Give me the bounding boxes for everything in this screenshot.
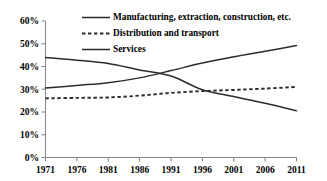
x-tick-label: 1996 — [193, 165, 212, 175]
series-line-1 — [46, 87, 297, 98]
y-tick-label: 30% — [20, 85, 39, 95]
series-line-2 — [46, 46, 297, 89]
y-axis: 0%10%20%30%40%50%60% — [20, 16, 46, 163]
y-tick-label: 10% — [20, 130, 39, 140]
x-axis: 197119761981198619911996200120062011 — [36, 158, 306, 176]
data-series-group — [46, 46, 297, 111]
y-tick-label: 60% — [20, 16, 39, 26]
y-axis-ticks — [42, 21, 46, 158]
x-tick-label: 2011 — [287, 165, 306, 175]
y-tick-label: 40% — [20, 62, 39, 72]
y-tick-label: 0% — [25, 153, 39, 163]
legend-label-1: Distribution and transport — [113, 28, 220, 38]
x-tick-label: 1976 — [67, 165, 86, 175]
y-tick-label: 50% — [20, 39, 39, 49]
y-tick-label: 20% — [20, 107, 39, 117]
x-tick-label: 1981 — [99, 165, 118, 175]
x-axis-ticks — [46, 158, 297, 162]
chart-canvas: 0%10%20%30%40%50%60% 1971197619811986199… — [0, 0, 327, 181]
legend-label-0: Manufacturing, extraction, construction,… — [113, 12, 291, 22]
x-tick-label: 2006 — [256, 165, 275, 175]
chart-legend: Manufacturing, extraction, construction,… — [82, 12, 291, 54]
x-axis-tick-labels: 197119761981198619911996200120062011 — [36, 165, 306, 175]
line-chart: 0%10%20%30%40%50%60% 1971197619811986199… — [0, 0, 327, 181]
legend-label-2: Services — [113, 44, 146, 54]
x-tick-label: 1971 — [36, 165, 55, 175]
x-tick-label: 1991 — [162, 165, 181, 175]
x-tick-label: 1986 — [130, 165, 149, 175]
x-tick-label: 2001 — [224, 165, 243, 175]
y-axis-tick-labels: 0%10%20%30%40%50%60% — [20, 16, 39, 163]
